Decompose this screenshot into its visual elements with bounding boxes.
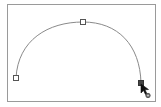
anchor-point-left[interactable]	[14, 76, 19, 81]
anchor-point-top[interactable]	[81, 20, 86, 25]
pen-cursor-icon	[141, 84, 150, 98]
path-drawing[interactable]	[0, 0, 161, 107]
curved-path[interactable]	[16, 22, 141, 83]
